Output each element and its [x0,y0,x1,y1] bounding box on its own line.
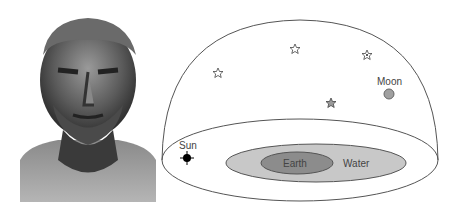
moon-label: Moon [377,76,402,87]
star-icon [326,98,336,108]
sun-icon [180,151,194,165]
earth-label: Earth [283,158,307,169]
star-icon [213,68,223,78]
moon-icon [384,89,394,99]
star-icon [290,44,300,54]
cosmology-diagram: Earth Water Sun Moon [0,0,457,211]
sky-dome [162,20,438,160]
water-label: Water [343,158,370,169]
sun-label: Sun [179,140,197,151]
star-icon [362,50,372,60]
